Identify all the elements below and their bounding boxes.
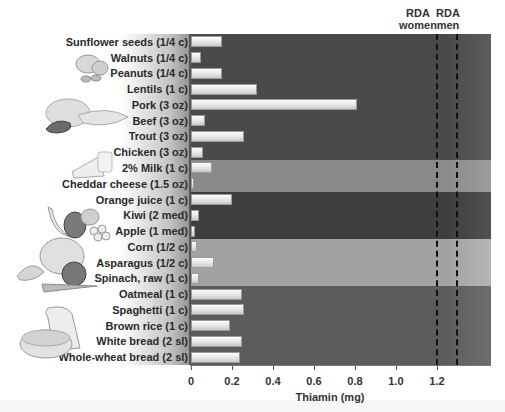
- group-band: [190, 192, 491, 239]
- bar: [191, 194, 232, 205]
- category-label: Chicken (3 oz): [113, 144, 188, 160]
- footer-strip: [0, 400, 505, 412]
- bar: [191, 336, 242, 347]
- bar: [191, 84, 257, 95]
- rda-men-line2: men: [423, 19, 473, 31]
- x-tick-label: 0: [176, 375, 206, 387]
- dairy-icon: [70, 150, 115, 182]
- category-label: Asparagus (1/2 c): [96, 255, 188, 271]
- category-label: Walnuts (1/4 c): [111, 50, 188, 66]
- category-label: Corn (1/2 c): [127, 239, 188, 255]
- bar: [191, 304, 244, 315]
- x-tick: [355, 366, 356, 370]
- x-tick: [232, 366, 233, 370]
- category-label: Oatmeal (1 c): [119, 286, 188, 302]
- x-tick: [314, 366, 315, 370]
- x-tick: [437, 366, 438, 370]
- x-tick-label: 0.4: [258, 375, 288, 387]
- nuts-icon: [70, 50, 115, 85]
- vegetables-icon: [12, 236, 97, 294]
- x-tick-label: 1.2: [422, 375, 452, 387]
- rda-men-line1: RDA: [423, 7, 473, 19]
- rda-reference-line: [456, 34, 458, 365]
- bar: [191, 352, 240, 363]
- category-label: Trout (3 oz): [129, 128, 188, 144]
- bar: [191, 68, 222, 79]
- bar: [191, 52, 201, 63]
- category-label: Apple (1 med): [115, 223, 188, 239]
- bar: [191, 257, 214, 268]
- category-label: White bread (2 sl): [96, 333, 188, 349]
- x-tick: [191, 366, 192, 370]
- category-label: Pork (3 oz): [132, 97, 188, 113]
- rda-men-label: RDA men: [423, 7, 473, 31]
- x-tick: [273, 366, 274, 370]
- bar: [191, 36, 222, 47]
- bar: [191, 210, 199, 221]
- bar: [191, 241, 197, 252]
- bar: [191, 273, 199, 284]
- group-band: [190, 160, 491, 192]
- y-axis-line: [189, 34, 191, 365]
- category-label: Kiwi (2 med): [123, 207, 188, 223]
- category-label: Spinach, raw (1 c): [94, 270, 188, 286]
- x-tick: [396, 366, 397, 370]
- bar: [191, 162, 212, 173]
- category-label: Lentils (1 c): [127, 81, 188, 97]
- bar: [191, 131, 244, 142]
- rda-reference-line: [436, 34, 438, 365]
- x-tick-label: 0.2: [217, 375, 247, 387]
- meats-icon: [38, 95, 133, 135]
- bar: [191, 99, 357, 110]
- category-label: Brown rice (1 c): [105, 318, 188, 334]
- x-tick-label: 0.6: [299, 375, 329, 387]
- bar: [191, 226, 195, 237]
- bar: [191, 289, 242, 300]
- group-band: [190, 239, 491, 286]
- bar: [191, 115, 205, 126]
- category-label: Spaghetti (1 c): [112, 302, 188, 318]
- category-label: 2% Milk (1 c): [122, 160, 188, 176]
- bar: [191, 147, 203, 158]
- bar: [191, 178, 194, 189]
- x-tick-label: 1.0: [381, 375, 411, 387]
- bar: [191, 320, 230, 331]
- x-tick-label: 0.8: [340, 375, 370, 387]
- plot-area: [190, 34, 491, 365]
- grains-icon: [18, 304, 88, 362]
- category-label: Sunflower seeds (1/4 c): [66, 34, 188, 50]
- category-label: Beef (3 oz): [132, 113, 188, 129]
- x-axis-line: [190, 365, 491, 366]
- x-axis-title: Thiamin (mg): [280, 391, 380, 403]
- category-label: Peanuts (1/4 c): [110, 65, 188, 81]
